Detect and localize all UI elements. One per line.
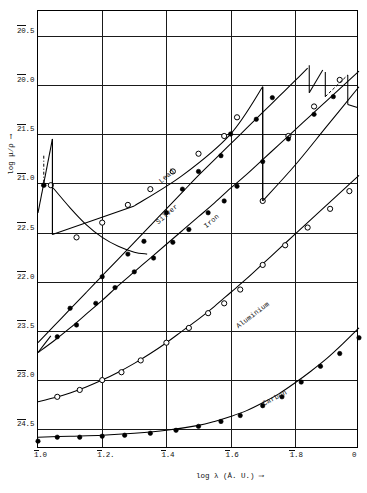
plot-area: LeadSilverIronAluminiumCarbon (37, 10, 358, 448)
data-point-carbon (122, 433, 126, 437)
x-axis-title: log λ (Å. U.) ⟶ (196, 471, 264, 480)
figure-container: log μ/ρ ⟶ log λ (Å. U.) ⟶ LeadSilverIron… (0, 0, 367, 493)
data-point-carbon (238, 413, 242, 417)
data-point-carbon (174, 428, 178, 432)
data-point-silver-k-edge (41, 183, 46, 188)
data-point-silver (100, 220, 105, 225)
data-point-silver (74, 235, 79, 240)
y-tick-label: 20.5 (17, 27, 34, 35)
y-tick-label: 24.5 (17, 420, 34, 428)
data-layer (38, 11, 359, 449)
data-point-iron (151, 256, 155, 260)
data-point-aluminium (100, 378, 105, 383)
y-tick-label: 21.0 (17, 174, 34, 182)
data-point-aluminium (55, 394, 60, 399)
data-point-iron (113, 285, 117, 289)
data-point-aluminium (305, 225, 310, 230)
data-point-iron (187, 227, 191, 231)
data-point-iron (171, 240, 175, 244)
data-point-lead (219, 153, 223, 157)
silver-pre-k-ramp (38, 139, 52, 213)
data-point-iron (74, 323, 78, 327)
y-tick-label: 22.0 (17, 273, 34, 281)
lead-l3-tail (348, 105, 358, 108)
curve-carbon (38, 328, 359, 437)
data-point-iron (312, 112, 316, 116)
data-point-iron (331, 94, 335, 98)
data-point-carbon (55, 435, 59, 439)
data-point-aluminium (283, 243, 288, 248)
data-point-lead (142, 239, 146, 243)
data-point-iron (206, 211, 210, 215)
data-point-aluminium (328, 206, 333, 211)
data-point-carbon (219, 419, 223, 423)
x-tick-label: 1.2. (97, 451, 114, 459)
data-point-carbon (338, 351, 342, 355)
x-tick-label: 1.4 (161, 451, 174, 459)
data-point-aluminium (260, 262, 265, 267)
data-point-aluminium (119, 370, 124, 375)
lead-l2-l3-dashed-link (325, 75, 347, 97)
data-point-iron (235, 184, 239, 188)
data-point-carbon (148, 431, 152, 435)
data-point-carbon (78, 435, 82, 439)
data-point-silver (311, 104, 316, 109)
data-point-iron (132, 270, 136, 274)
y-tick-label: 22.5 (17, 224, 34, 232)
data-point-silver (222, 133, 227, 138)
x-tick-label: 0 (352, 451, 356, 459)
y-tick-label: 23.5 (17, 322, 34, 330)
silver-trunk (134, 87, 262, 206)
data-point-lead (100, 275, 104, 279)
data-point-lead (68, 306, 72, 310)
data-point-lead (196, 169, 200, 173)
x-tick-label: 1.6 (226, 451, 239, 459)
data-point-iron (55, 335, 59, 339)
data-point-lead (126, 252, 130, 256)
data-point-aluminium (238, 287, 243, 292)
curve-iron (38, 71, 359, 353)
curve-aluminium (38, 175, 359, 401)
data-point-silver (234, 115, 239, 120)
data-point-carbon (36, 439, 40, 443)
data-point-carbon (100, 434, 104, 438)
data-point-lead (254, 117, 258, 121)
data-point-aluminium (222, 301, 227, 306)
data-point-aluminium (138, 358, 143, 363)
data-point-carbon (299, 380, 303, 384)
y-tick-label: 23.0 (17, 371, 34, 379)
x-tick-label: 1.0 (34, 451, 47, 459)
data-point-lead (270, 95, 274, 99)
data-point-aluminium (77, 387, 82, 392)
lead-l1-l2-ramp (309, 70, 322, 93)
data-point-iron (286, 137, 290, 141)
data-point-aluminium (206, 311, 211, 316)
data-point-aluminium (347, 189, 352, 194)
data-point-silver (337, 77, 342, 82)
data-point-iron (222, 199, 226, 203)
x-tick-label: 1.8 (290, 451, 303, 459)
y-tick-label: 21.5 (17, 125, 34, 133)
data-point-carbon (357, 336, 361, 340)
data-point-aluminium (164, 340, 169, 345)
silver-post-k-ramp (52, 206, 134, 235)
data-point-carbon (318, 364, 322, 368)
data-point-lead (180, 187, 184, 191)
silver-post-k2 (263, 87, 359, 201)
y-axis-title-text: log μ/ρ ⟶ (7, 134, 15, 175)
data-point-aluminium (186, 325, 191, 330)
y-tick-label: 20.0 (17, 76, 34, 84)
data-point-iron (94, 301, 98, 305)
data-point-silver (148, 187, 153, 192)
data-point-silver (196, 151, 201, 156)
data-point-carbon (196, 424, 200, 428)
y-axis-title: log μ/ρ ⟶ (6, 123, 15, 187)
x-axis-title-text: log λ (Å. U.) ⟶ (196, 472, 264, 480)
data-point-silver (125, 202, 130, 207)
